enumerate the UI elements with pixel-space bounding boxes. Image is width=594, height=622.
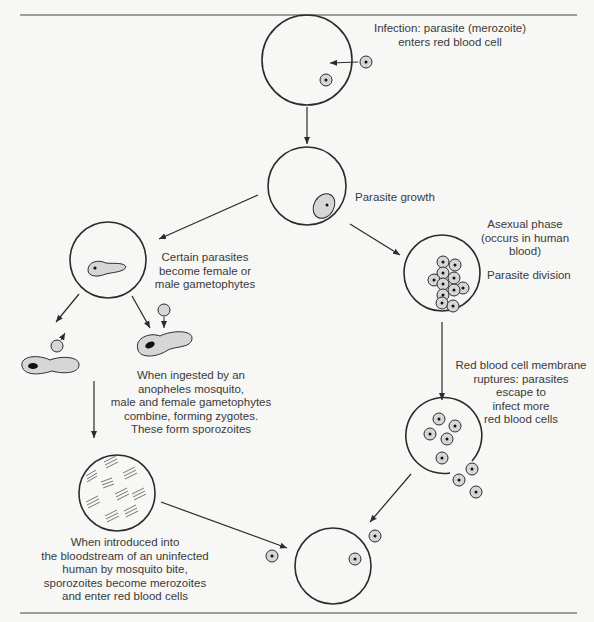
- gametophyte-right: [137, 304, 192, 356]
- arrow-growth-to-gametophyte: [159, 195, 258, 239]
- arrow-rupture-to-final: [370, 474, 411, 522]
- growth-cell: [268, 147, 346, 225]
- arrow-to-female-gametophyte: [56, 294, 79, 322]
- label-asexual-phase: Asexual phase (occurs in human blood): [470, 218, 580, 259]
- division-cell: [404, 235, 480, 312]
- label-mosquito: When ingested by an anopheles mosquito, …: [96, 369, 286, 437]
- label-division: Parasite division: [487, 269, 594, 283]
- arrow-growth-to-division: [350, 224, 400, 255]
- final-cell: [266, 528, 381, 604]
- sporozoite-cell: [79, 455, 155, 531]
- label-rupture: Red blood cell membrane ruptures: parasi…: [441, 359, 594, 427]
- label-infection: Infection: parasite (merozoite) enters r…: [355, 22, 545, 49]
- gametophyte-left: [22, 333, 79, 374]
- label-introduction: When introduced into the bloodstream of …: [20, 536, 230, 604]
- label-gametophytes: Certain parasites become female or male …: [145, 251, 265, 292]
- life-cycle-diagram: [0, 0, 594, 622]
- gametophyte-cell: [70, 222, 146, 298]
- label-growth: Parasite growth: [355, 191, 475, 205]
- arrow-to-male-gametophyte: [132, 296, 150, 328]
